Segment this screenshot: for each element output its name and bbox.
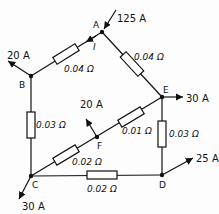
label-node-B: B <box>19 80 25 90</box>
resistor-label-CD: 0.02 Ω <box>87 184 117 194</box>
resistor-EF <box>118 107 144 127</box>
node-A <box>100 30 104 34</box>
arrow-C-out <box>19 176 31 199</box>
label-node-C: C <box>32 180 38 190</box>
node-C <box>29 174 33 178</box>
circuit-svg: A B C D E F 125 A I 20 A 30 A 20 A 25 A … <box>0 0 219 214</box>
current-label-A-in: 125 A <box>117 13 146 24</box>
label-node-E: E <box>163 85 169 95</box>
arrow-D-out <box>164 158 193 174</box>
resistor-label-FC: 0.02 Ω <box>72 157 102 167</box>
node-E <box>160 95 164 99</box>
resistor-CD <box>87 171 117 179</box>
arrow-B-out <box>8 61 31 76</box>
current-label-C-out: 30 A <box>22 201 45 212</box>
resistor-label-BC: 0.03 Ω <box>36 120 66 130</box>
current-label-I: I <box>93 42 96 52</box>
resistor-ED <box>158 121 166 147</box>
current-label-F-out: 20 A <box>80 99 103 110</box>
label-node-A: A <box>93 20 100 30</box>
resistor-label-AB: 0.04 Ω <box>64 64 94 74</box>
resistor-label-EF: 0.01 Ω <box>122 126 152 136</box>
resistor-label-AE: 0.04 Ω <box>134 52 164 62</box>
node-D <box>160 173 164 177</box>
label-node-D: D <box>159 180 166 190</box>
label-node-F: F <box>97 141 102 151</box>
current-label-B-out: 20 A <box>7 50 30 61</box>
current-label-E-out: 30 A <box>186 93 209 104</box>
circuit-diagram: A B C D E F 125 A I 20 A 30 A 20 A 25 A … <box>0 0 219 214</box>
resistor-BC <box>27 112 35 138</box>
current-label-D-out: 25 A <box>196 153 219 164</box>
resistor-AB <box>53 44 79 64</box>
node-F <box>95 135 99 139</box>
arrow-F-out <box>86 119 97 137</box>
arrow-A-in <box>104 10 116 29</box>
resistor-label-ED: 0.03 Ω <box>169 129 199 139</box>
node-B <box>29 74 33 78</box>
